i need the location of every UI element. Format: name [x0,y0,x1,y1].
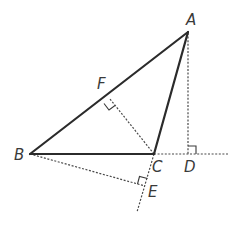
diagram-svg: A B C D E F [0,0,242,227]
label-F: F [97,75,106,93]
label-D: D [184,158,196,176]
side-CA [154,32,188,154]
side-AB [30,32,188,154]
right-angle-marker-D [188,146,196,154]
label-E: E [148,183,158,201]
geometry-diagram: A B C D E F [0,0,242,227]
altitude-CF [110,99,154,154]
label-B: B [14,146,24,164]
label-C: C [152,158,163,176]
altitude-BE [30,154,145,186]
label-A: A [185,11,196,29]
right-angle-marker-F [104,104,115,111]
